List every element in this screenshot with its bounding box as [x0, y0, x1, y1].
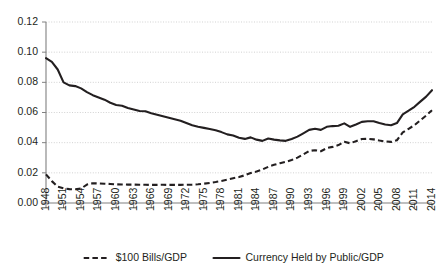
legend-label: Currency Held by Public/GDP	[246, 251, 384, 263]
x-tick-label: 1969	[162, 187, 174, 211]
x-tick-label: 1963	[127, 187, 139, 211]
x-tick-label: 1996	[320, 187, 332, 211]
x-tick-label: 2005	[372, 187, 384, 211]
x-tick-label: 1960	[109, 187, 121, 211]
y-tick-label: 0.12	[18, 15, 39, 27]
x-tick-label: 1975	[197, 187, 209, 211]
x-tick-label: 1990	[284, 187, 296, 211]
y-tick-label: 0.00	[18, 196, 39, 208]
x-tick-label: 1987	[267, 187, 279, 211]
y-tick-label: 0.06	[18, 105, 39, 117]
x-tick-label: 1978	[214, 187, 226, 211]
y-tick-label: 0.04	[18, 135, 39, 147]
x-tick-label: 1984	[249, 187, 261, 211]
data-series	[46, 58, 432, 189]
chart-legend: $100 Bills/GDPCurrency Held by Public/GD…	[84, 251, 384, 263]
y-tick-label: 0.10	[18, 45, 39, 57]
legend-label: $100 Bills/GDP	[116, 251, 187, 263]
y-tick-labels: 0.000.020.040.060.080.100.12	[18, 15, 39, 208]
x-tick-label: 1999	[337, 187, 349, 211]
x-tick-label: 1966	[144, 187, 156, 211]
chart-figure: 0.000.020.040.060.080.100.12 19481951195…	[0, 0, 441, 275]
x-tick-label: 1993	[302, 187, 314, 211]
series-line	[46, 58, 432, 141]
x-tick-labels: 1948195119541957196019631966196919721975…	[39, 187, 437, 211]
x-tick-label: 2008	[390, 187, 402, 211]
x-tick-label: 1981	[232, 187, 244, 211]
chart-canvas: 0.000.020.040.060.080.100.12 19481951195…	[0, 0, 441, 275]
x-tick-label: 2014	[425, 187, 437, 211]
y-axis	[42, 22, 46, 203]
x-tick-label: 1972	[179, 187, 191, 211]
x-tick-label: 2002	[355, 187, 367, 211]
gridlines	[46, 22, 432, 173]
y-tick-label: 0.02	[18, 166, 39, 178]
x-tick-label: 1957	[91, 187, 103, 211]
x-tick-label: 2011	[407, 188, 419, 211]
x-tick-label: 1951	[56, 187, 68, 211]
x-tick-label: 1948	[39, 187, 51, 211]
y-tick-label: 0.08	[18, 75, 39, 87]
x-tick-label: 1954	[74, 187, 86, 211]
